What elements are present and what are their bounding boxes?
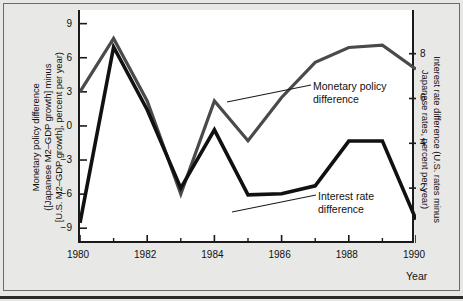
annotation-monetary-policy-difference: Monetary policy difference — [313, 80, 387, 105]
x-axis-tick-label: 1986 — [260, 249, 300, 260]
figure-container: Monetary policy difference ([Japanese M2… — [0, 0, 463, 301]
left-axis-tick-label: 3 — [50, 86, 72, 97]
right-axis-tick-label: 2 — [420, 182, 442, 193]
leader-monetary-policy-difference — [227, 85, 311, 102]
bottom-axis-ticks — [80, 235, 416, 243]
right-axis-tick-label: 4 — [420, 137, 442, 148]
annotation-monetary-line2: difference — [313, 93, 387, 106]
left-axis-tick-label: 6 — [50, 52, 72, 63]
annotation-interest-rate-difference: Interest rate difference — [318, 190, 374, 215]
leader-interest-rate-difference — [232, 195, 316, 212]
x-axis-tick-label: 1984 — [192, 249, 232, 260]
right-axis-tick-label: 8 — [420, 48, 442, 59]
x-axis-tick-label: 1988 — [327, 249, 367, 260]
annotation-interest-line2: difference — [318, 203, 374, 216]
left-axis-tick-label: −6 — [50, 188, 72, 199]
series-line-monetary-policy-difference — [80, 38, 416, 194]
left-axis-tick-label: −3 — [50, 154, 72, 165]
x-axis-tick-label: 1980 — [58, 249, 98, 260]
x-axis-tick-label: 1982 — [125, 249, 165, 260]
left-axis-tick-label: −9 — [50, 222, 72, 233]
left-axis-tick-label: 0 — [50, 120, 72, 131]
x-axis-title: Year — [406, 270, 427, 282]
x-axis-tick-label: 1990 — [394, 249, 434, 260]
annotation-monetary-line1: Monetary policy — [313, 80, 387, 93]
figure-bottom-rule — [0, 296, 463, 299]
left-axis-tick-label: 9 — [50, 18, 72, 29]
right-axis-tick-label: 6 — [420, 92, 442, 103]
annotation-interest-line1: Interest rate — [318, 190, 374, 203]
right-axis-ticks — [409, 54, 416, 188]
left-axis-title-line1: Monetary policy difference — [30, 12, 42, 262]
